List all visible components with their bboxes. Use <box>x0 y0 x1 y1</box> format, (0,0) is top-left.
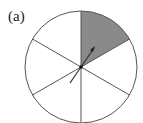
spinner-diagram <box>0 0 143 123</box>
spinner-center-pivot <box>79 65 83 69</box>
shaded-sector <box>81 11 130 67</box>
